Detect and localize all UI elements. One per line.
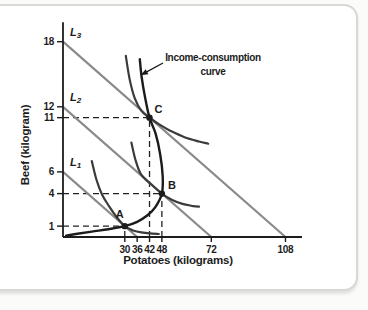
annotation-text-line2: curve (200, 66, 226, 77)
point-C (146, 114, 152, 120)
annotation-text-line1: Income-consumption (165, 52, 261, 63)
budget-line-label-L1: L1 (70, 156, 82, 171)
y-tick-label-1: 1 (49, 221, 55, 232)
y-axis-title: Beef (kilogram) (19, 104, 31, 185)
budget-line-label-L3: L3 (70, 26, 82, 41)
annotation-arrow-line (145, 63, 163, 73)
point-label-C: C (155, 103, 163, 115)
x-tick-label-108: 108 (278, 244, 295, 255)
indifference-curve-C (126, 56, 208, 144)
y-tick-label-6: 6 (49, 166, 55, 177)
y-tick-label-18: 18 (43, 36, 54, 47)
x-axis-title: Potatoes (kilograms) (123, 254, 233, 266)
budget-line-L2 (63, 107, 211, 237)
budget-line-label-L2: L2 (70, 91, 82, 106)
y-tick-label-11: 11 (44, 112, 55, 123)
page-background: L1L2L31461112183036424872108ABC Beef (ki… (0, 0, 368, 310)
y-tick-label-4: 4 (49, 188, 55, 199)
point-B (159, 190, 165, 196)
point-label-A: A (116, 208, 124, 220)
y-tick-label-12: 12 (43, 101, 54, 112)
chart-canvas: L1L2L31461112183036424872108ABC Beef (ki… (0, 0, 368, 310)
point-A (122, 223, 128, 229)
budget-line-L3 (63, 42, 285, 237)
point-label-B: B (168, 179, 176, 191)
